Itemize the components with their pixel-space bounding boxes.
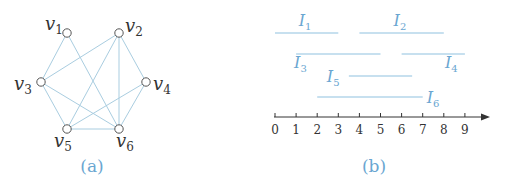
- figure: v1v2v3v4v5v6 (a) I1I2I3I4I5I6 0123456789…: [0, 0, 506, 193]
- edge-v4-v6: [119, 82, 146, 129]
- edge-v2-v4: [119, 33, 146, 82]
- axis-tick-label-5: 5: [377, 123, 385, 137]
- node-v1: [63, 29, 71, 37]
- axis-tick-label-6: 6: [398, 123, 406, 137]
- interval-label-I5: I5: [326, 67, 340, 88]
- graph-edges: [41, 33, 146, 129]
- interval-label-I3: I3: [293, 53, 307, 74]
- node-label-v1: v1: [45, 13, 63, 37]
- number-line-axis: 0123456789: [271, 113, 490, 137]
- axis-arrow-icon: [481, 114, 490, 121]
- caption-a: (a): [80, 156, 103, 176]
- axis-tick-label-9: 9: [461, 123, 469, 137]
- interval-label-I4: I4: [444, 53, 458, 74]
- graph-nodes: v1v2v3v4v5v6: [14, 13, 171, 154]
- axis-tick-label-3: 3: [334, 123, 342, 137]
- node-label-v2: v2: [125, 15, 143, 39]
- node-label-v6: v6: [116, 130, 134, 154]
- edge-v1-v3: [41, 33, 67, 82]
- axis-tick-label-1: 1: [292, 123, 300, 137]
- edge-v2-v3: [41, 33, 119, 82]
- axis-tick-label-8: 8: [440, 123, 448, 137]
- edge-v3-v5: [41, 82, 67, 129]
- node-label-v4: v4: [153, 73, 171, 97]
- interval-label-I1: I1: [298, 11, 312, 32]
- node-label-v3: v3: [14, 73, 32, 97]
- caption-b: (b): [362, 156, 386, 176]
- interval-label-I6: I6: [426, 88, 440, 109]
- interval-label-I2: I2: [393, 11, 407, 32]
- node-v2: [115, 29, 123, 37]
- axis-tick-label-4: 4: [356, 123, 364, 137]
- panel-b-intervals: I1I2I3I4I5I6 0123456789 (b): [271, 11, 490, 176]
- axis-tick-label-7: 7: [419, 123, 427, 137]
- panel-a-graph: v1v2v3v4v5v6 (a): [14, 13, 171, 176]
- node-label-v5: v5: [54, 130, 72, 154]
- axis-tick-label-0: 0: [271, 123, 279, 137]
- interval-segments: I1I2I3I4I5I6: [275, 11, 465, 109]
- axis-tick-label-2: 2: [313, 123, 321, 137]
- node-v3: [37, 78, 45, 86]
- node-v4: [142, 78, 150, 86]
